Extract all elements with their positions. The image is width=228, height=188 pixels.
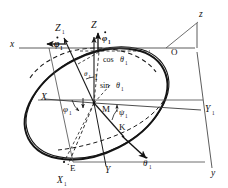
svg-text:θ: θ [143, 158, 148, 168]
rate-label-phi1-dot-top-subscript: 1 [108, 39, 111, 45]
axis-label-z: z [198, 9, 203, 19]
rate-label-theta1-dot-subscript: 1 [149, 164, 152, 170]
angle-label-psi1-subscript: 1 [125, 113, 128, 119]
figure-container: x z y X Y Z X 1 Y 1 Z 1 O M K E φ 1 θ [0, 0, 228, 188]
svg-text:φ: φ [102, 33, 107, 43]
svg-text:θ: θ [84, 70, 88, 78]
svg-text:cos: cos [103, 55, 114, 64]
euler-angle-diagram: x z y X Y Z X 1 Y 1 Z 1 O M K E φ 1 θ [0, 0, 228, 188]
angle-label-theta1-top-subscript: 1 [89, 74, 91, 79]
projection-label-sin-theta1-symbol: θ [116, 81, 120, 90]
point-label-O: O [171, 47, 178, 57]
axis-label-x: x [9, 39, 15, 49]
axis-label-Y1-subscript: 1 [212, 110, 215, 116]
overdot-phi1-dot-left [56, 36, 58, 38]
projection-label-sin-theta1-subscript: 1 [121, 86, 124, 92]
axis-label-X: X [40, 92, 48, 102]
projection-label-unit-one: 1 [94, 73, 98, 82]
projection-label-cos-theta1-subscript: 1 [125, 60, 128, 66]
svg-text:φ: φ [63, 104, 68, 114]
axis-label-Z: Z [91, 19, 97, 30]
point-label-M: M [102, 104, 110, 114]
svg-text:sin: sin [100, 81, 109, 90]
axis-label-y: y [210, 168, 216, 178]
svg-text:1: 1 [94, 73, 98, 82]
overdot-theta1-dot [146, 157, 148, 159]
angle-label-phi1-base-subscript: 1 [69, 110, 72, 116]
point-label-E: E [70, 163, 76, 173]
rate-label-phi1-dot-left-subscript: 1 [60, 45, 63, 51]
point-label-K: K [119, 122, 126, 132]
svg-text:Z: Z [55, 22, 61, 33]
projection-label-cos-theta1-symbol: θ [120, 55, 124, 64]
overdot-phi1-dot-top [104, 31, 106, 33]
axis-label-Z1-subscript: 1 [62, 29, 65, 35]
point-M-marker [93, 102, 96, 105]
svg-text:X: X [56, 175, 64, 185]
point-E-marker [63, 161, 65, 163]
axis-label-X1-subscript: 1 [64, 181, 67, 187]
